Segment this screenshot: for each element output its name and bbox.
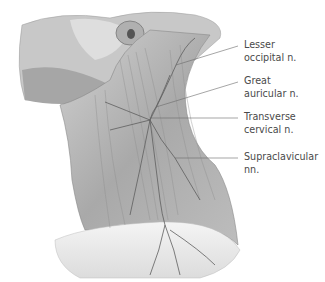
label-line-2: cervical n. <box>244 124 296 137</box>
label-transverse-cervical-nerve: Transverse cervical n. <box>244 111 296 136</box>
label-line-1: Supraclavicular <box>244 151 318 164</box>
label-lesser-occipital-nerve: Lesser occipital n. <box>244 39 296 64</box>
label-line-1: Transverse <box>244 111 296 124</box>
label-line-1: Great <box>244 75 299 88</box>
chest-region <box>55 222 240 278</box>
label-supraclavicular-nerves: Supraclavicular nn. <box>244 151 318 176</box>
label-great-auricular-nerve: Great auricular n. <box>244 75 299 100</box>
label-line-2: auricular n. <box>244 88 299 101</box>
label-line-2: nn. <box>244 164 318 177</box>
label-line-2: occipital n. <box>244 52 296 65</box>
label-line-1: Lesser <box>244 39 296 52</box>
